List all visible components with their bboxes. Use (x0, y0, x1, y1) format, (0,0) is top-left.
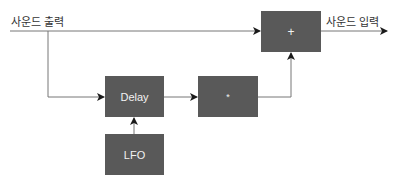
input-label: 사운드 출력 (11, 13, 65, 29)
multiply-label: * (226, 92, 230, 102)
input-to-delay-wire (48, 31, 104, 97)
sum-block: + (261, 11, 321, 52)
sum-label: + (287, 25, 294, 39)
multiply-to-sum-wire (258, 53, 291, 97)
delay-label: Delay (120, 91, 148, 103)
multiply-block: * (198, 76, 258, 117)
output-label: 사운드 입력 (326, 13, 380, 29)
lfo-label: LFO (124, 149, 145, 161)
delay-block: Delay (105, 76, 164, 117)
lfo-block: LFO (105, 134, 164, 175)
